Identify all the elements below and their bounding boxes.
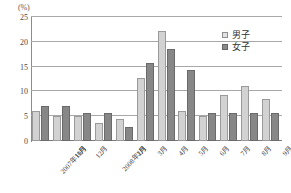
legend-swatch-male-icon — [222, 32, 228, 38]
x-axis-tick-labels: 2007年10月11月12月2008年1月2月3月4月5月6月7月8月9月 — [31, 143, 282, 193]
y-tick-label: 25 — [20, 13, 28, 22]
bar-female — [125, 127, 133, 141]
legend-swatch-female-icon — [222, 44, 228, 50]
x-tick-label: 4月 — [175, 143, 189, 157]
y-tick-label: 10 — [20, 87, 28, 96]
bar-female — [229, 113, 237, 141]
bar-female — [250, 113, 258, 141]
bar-female — [187, 70, 195, 141]
x-tick-label: 9月 — [280, 143, 291, 157]
legend-item-male: 男子 — [222, 29, 284, 41]
bar-group — [115, 17, 136, 141]
bar-male — [220, 95, 228, 141]
y-tick-label: 0 — [24, 137, 28, 146]
bar-group — [94, 17, 115, 141]
y-tick-label: 5 — [24, 112, 28, 121]
legend-label-male: 男子 — [232, 30, 250, 40]
x-tick-label: 8月 — [259, 143, 273, 157]
bar-male — [74, 116, 82, 141]
bar-male — [32, 111, 40, 141]
bar-male — [95, 123, 103, 141]
bar-male — [116, 119, 124, 141]
bar-male — [241, 86, 249, 141]
bar-group — [52, 17, 73, 141]
x-tick-label: 6月 — [217, 143, 231, 157]
bar-male — [158, 31, 166, 141]
bar-female — [208, 113, 216, 141]
bar-group — [136, 17, 157, 141]
bar-group — [177, 17, 198, 141]
y-tick-label: 15 — [20, 62, 28, 71]
chart-legend: 男子 女子 — [222, 29, 284, 53]
x-tick-label: 5月 — [196, 143, 210, 157]
bar-male — [199, 116, 207, 141]
y-tick-label: 20 — [20, 37, 28, 46]
bar-female — [271, 113, 279, 141]
x-tick-label: 3月 — [154, 143, 168, 157]
bar-group — [198, 17, 219, 141]
legend-label-female: 女子 — [232, 42, 250, 52]
bar-chart: (%) 0510152025 2007年10月11月12月2008年1月2月3月… — [0, 0, 291, 193]
bar-group — [73, 17, 94, 141]
bar-male — [262, 99, 270, 141]
bar-male — [178, 111, 186, 141]
bar-group — [157, 17, 178, 141]
x-tick-label: 12月 — [93, 143, 110, 160]
bar-female — [62, 106, 70, 141]
bar-male — [53, 116, 61, 141]
bar-male — [137, 78, 145, 141]
y-axis-unit-label: (%) — [18, 3, 29, 12]
bar-female — [146, 63, 154, 141]
bar-female — [104, 113, 112, 141]
bar-female — [167, 49, 175, 141]
bar-group — [31, 17, 52, 141]
x-tick-label: 7月 — [238, 143, 252, 157]
bar-female — [83, 113, 91, 141]
legend-item-female: 女子 — [222, 41, 284, 53]
bar-female — [41, 106, 49, 141]
